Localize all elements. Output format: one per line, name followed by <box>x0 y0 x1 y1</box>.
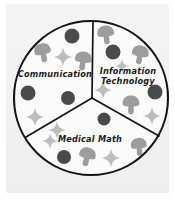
dot-icon <box>21 86 36 101</box>
dot-icon <box>148 85 163 100</box>
figure-canvas: Communication Information Technology Med… <box>0 0 175 202</box>
pie-svg <box>0 0 175 202</box>
dot-icon <box>57 150 71 164</box>
dot-icon <box>65 29 80 44</box>
divider-top <box>92 21 93 98</box>
pie-diagram: Communication Information Technology Med… <box>0 0 175 202</box>
dot-icon <box>106 45 121 60</box>
dot-icon <box>98 113 111 126</box>
dot-icon <box>61 91 75 105</box>
